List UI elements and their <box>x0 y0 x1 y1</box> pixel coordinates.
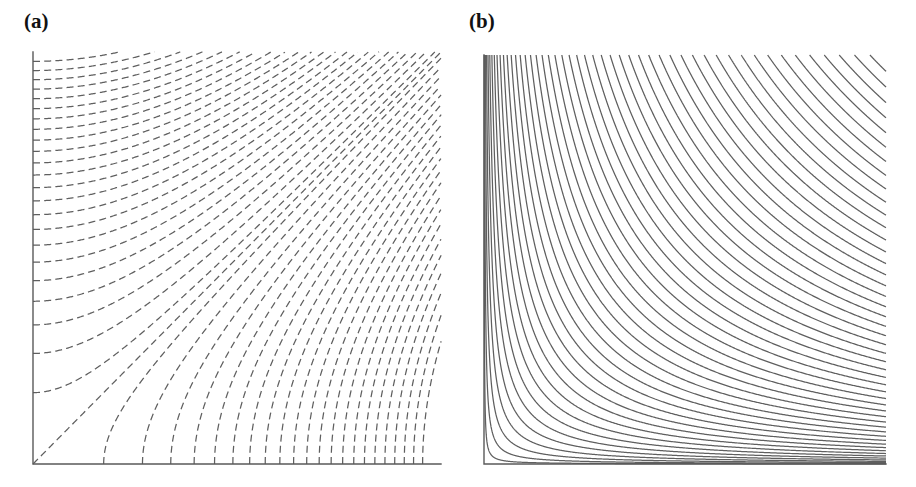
curve-dashed <box>375 239 441 464</box>
curve-solid <box>525 55 886 422</box>
curve-dashed <box>385 255 441 464</box>
curve-dashed <box>414 315 441 464</box>
curve-dashed <box>33 52 312 163</box>
curve-solid <box>577 55 886 370</box>
curve-solid <box>854 55 886 87</box>
curve-solid <box>490 55 886 458</box>
curve-dashed <box>33 52 407 301</box>
curve-solid <box>520 55 886 427</box>
panel-b: (b) <box>458 0 916 487</box>
curve-dashed <box>33 52 417 325</box>
curve-dashed <box>331 183 441 464</box>
curve-dashed <box>33 52 368 229</box>
curve-solid <box>610 55 886 336</box>
curve-solid <box>824 55 886 118</box>
curve-solid <box>494 55 886 454</box>
curve-solid <box>497 55 886 451</box>
curve-dashed <box>423 341 442 464</box>
curve-dashed <box>194 86 440 464</box>
curve-solid <box>681 55 886 264</box>
curve-dashed <box>33 52 120 61</box>
curve-solid <box>488 55 886 460</box>
panel-a-plot <box>0 0 460 487</box>
curve-solid <box>530 55 886 417</box>
panel-b-curve-group <box>484 55 886 464</box>
curve-solid <box>795 55 886 147</box>
curve-dashed <box>307 159 441 464</box>
curve-solid <box>729 55 886 215</box>
panel-a-curve-group <box>33 52 441 464</box>
curve-solid <box>503 55 886 444</box>
curve-solid <box>585 55 887 362</box>
curve-solid <box>542 55 886 405</box>
curve-dashed <box>171 76 441 464</box>
curve-dashed <box>33 52 426 353</box>
curve-dashed <box>33 52 155 71</box>
figure-root: (a) (b) <box>0 0 916 487</box>
curve-solid <box>754 55 886 189</box>
curve-dashed <box>142 67 440 464</box>
curve-dashed <box>33 52 335 188</box>
panel-a: (a) <box>0 0 460 487</box>
curve-dashed <box>265 125 441 464</box>
curve-solid <box>810 55 886 133</box>
panel-b-plot <box>458 0 916 487</box>
curve-solid <box>639 55 886 307</box>
curve-dashed <box>33 52 256 119</box>
curve-dashed <box>33 52 240 109</box>
curve-solid <box>704 55 886 240</box>
curve-dashed <box>33 52 180 80</box>
curve-solid <box>649 55 886 296</box>
curve-solid <box>870 55 886 71</box>
